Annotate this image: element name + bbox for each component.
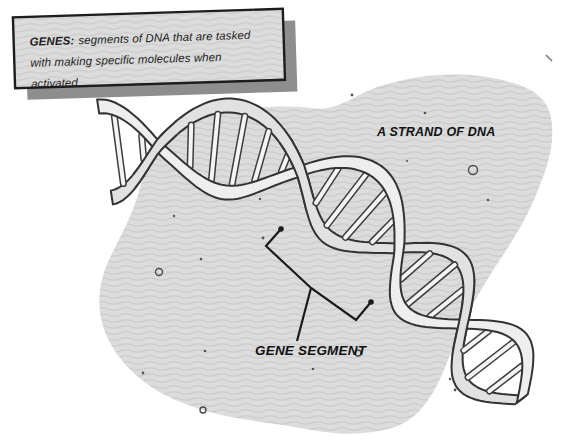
pointer-dot-left bbox=[278, 226, 284, 232]
label-strand-of-dna: A STRAND OF DNA bbox=[377, 125, 496, 139]
corner-tick bbox=[546, 55, 552, 61]
definition-box: GENES:segments of DNA that are tasked wi… bbox=[13, 9, 285, 88]
pointer-dot-right bbox=[368, 299, 374, 305]
gene-diagram: GENES:segments of DNA that are tasked wi… bbox=[0, 0, 567, 445]
definition-term: GENES: bbox=[29, 34, 74, 47]
label-gene-segment: GENE SEGMENT bbox=[255, 343, 366, 358]
